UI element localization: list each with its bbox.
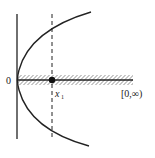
- interval-label: [0,∞): [121, 88, 142, 100]
- point-label-subscript: 1: [61, 94, 64, 100]
- diagram-canvas: 0 x 1 [0,∞): [0, 0, 155, 158]
- point-x1: [49, 77, 55, 83]
- point-label: x: [54, 88, 60, 99]
- origin-label: 0: [6, 75, 11, 86]
